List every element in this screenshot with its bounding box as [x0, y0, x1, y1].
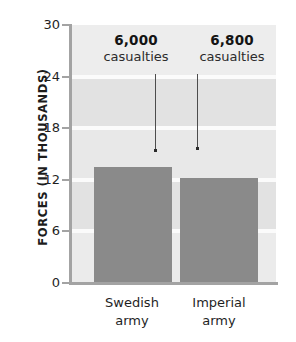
y-tick-mark-0 [62, 282, 70, 284]
bar-chart: FORCES (IN THOUSANDS) 30 24 18 12 6 [0, 0, 296, 342]
y-tick-label-0: 0 [32, 276, 60, 289]
y-tick-mark-18 [62, 127, 70, 129]
x-axis-baseline [69, 282, 278, 285]
y-tick-mark-12 [62, 179, 70, 181]
category-label-swedish-army: Swedish army [82, 294, 182, 329]
annotation-swedish-casualties: 6,000 casualties [90, 32, 182, 65]
band-18-24 [72, 77, 276, 129]
y-axis-spine [69, 24, 72, 285]
y-tick-label-18: 18 [32, 121, 60, 134]
annotation-leader-line-imperial [197, 74, 198, 148]
annotation-unit: casualties [90, 49, 182, 65]
y-tick-label-24: 24 [32, 70, 60, 83]
category-label-line2: army [82, 312, 182, 330]
bar-imperial-army[interactable] [180, 178, 258, 283]
annotation-leader-line-swedish [155, 74, 156, 150]
annotation-imperial-casualties: 6,800 casualties [186, 32, 278, 65]
y-tick-mark-24 [62, 76, 70, 78]
category-label-imperial-army: Imperial army [169, 294, 269, 329]
annotation-leader-dot-swedish [154, 149, 157, 152]
annotation-leader-dot-imperial [196, 147, 199, 150]
category-label-line1: Imperial [169, 294, 269, 312]
y-tick-mark-30 [62, 24, 70, 26]
y-tick-mark-6 [62, 230, 70, 232]
annotation-value: 6,000 [90, 32, 182, 49]
gridline-24 [72, 75, 276, 79]
category-label-line2: army [169, 312, 269, 330]
category-label-line1: Swedish [82, 294, 182, 312]
y-tick-label-30: 30 [32, 18, 60, 31]
y-tick-label-12: 12 [32, 173, 60, 186]
bar-swedish-army[interactable] [94, 167, 172, 283]
gridline-18 [72, 126, 276, 130]
annotation-value: 6,800 [186, 32, 278, 49]
y-tick-label-6: 6 [32, 224, 60, 237]
annotation-unit: casualties [186, 49, 278, 65]
